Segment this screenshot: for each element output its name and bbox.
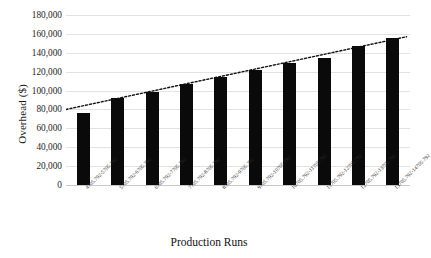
bar[interactable] — [214, 77, 227, 185]
y-axis-tick-label: 20,000 — [4, 161, 62, 171]
bar-slot — [238, 15, 272, 185]
x-axis-labels: 4705.792-5705.7925705.792-6705.7926705.7… — [66, 186, 410, 234]
bar[interactable] — [111, 98, 124, 185]
bar[interactable] — [249, 70, 262, 185]
y-axis-tick-label: 60,000 — [4, 123, 62, 133]
bar[interactable] — [146, 92, 159, 186]
y-axis-tick-label: 140,000 — [4, 48, 62, 58]
y-axis-tick-label: 80,000 — [4, 104, 62, 114]
y-axis-tick-label: 180,000 — [4, 10, 62, 20]
y-axis-tick-label: 160,000 — [4, 29, 62, 39]
bar-slot — [66, 15, 100, 185]
bar[interactable] — [77, 113, 90, 185]
y-axis-tick-label: 40,000 — [4, 142, 62, 152]
x-axis-title: Production Runs — [0, 236, 418, 248]
bar[interactable] — [318, 58, 331, 186]
bar[interactable] — [180, 84, 193, 185]
y-axis-tick-label: 100,000 — [4, 86, 62, 96]
bar[interactable] — [283, 63, 296, 185]
y-axis-tick-label: 120,000 — [4, 67, 62, 77]
y-axis-tick-label: 0 — [4, 180, 62, 190]
